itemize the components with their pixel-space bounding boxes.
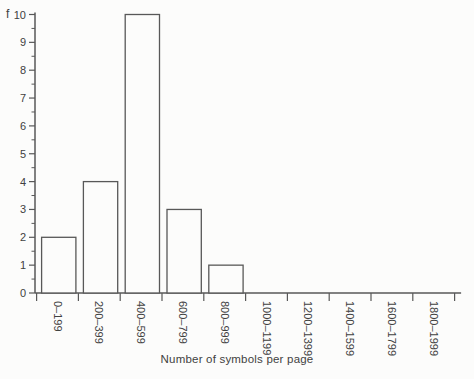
y-tick-label: 10 (14, 9, 26, 21)
x-category-label: 1800–1999 (428, 301, 440, 356)
y-axis-label: f (6, 7, 9, 21)
histogram-bar (209, 265, 243, 293)
y-tick-label: 2 (20, 231, 26, 243)
x-category-label: 800–999 (219, 301, 231, 344)
y-tick-label: 9 (20, 36, 26, 48)
y-tick-label: 3 (20, 203, 26, 215)
y-tick-label: 1 (20, 259, 26, 271)
x-category-label: 1400–1599 (344, 301, 356, 356)
y-tick-label: 8 (20, 64, 26, 76)
x-category-label: 0–199 (52, 301, 64, 332)
histogram-canvas: 0123456789100–199200–399400–599600–79980… (0, 0, 474, 379)
x-axis-title: Number of symbols per page (0, 353, 474, 365)
histogram-bar (167, 209, 201, 293)
histogram-bar (125, 15, 159, 294)
x-category-label: 200–399 (93, 301, 105, 344)
x-category-label: 600–799 (177, 301, 189, 344)
histogram-figure: 0123456789100–199200–399400–599600–79980… (0, 0, 474, 379)
x-category-label: 1000–1199 (261, 301, 273, 355)
y-tick-label: 5 (20, 148, 26, 160)
x-category-label: 1200–1399 (302, 301, 314, 356)
y-tick-label: 6 (20, 120, 26, 132)
histogram-bar (83, 182, 117, 293)
x-category-label: 1600–1799 (386, 301, 398, 356)
y-tick-label: 7 (20, 92, 26, 104)
histogram-bar (42, 237, 76, 293)
y-tick-label: 4 (20, 176, 26, 188)
y-tick-label: 0 (20, 287, 26, 299)
x-category-label: 400–599 (135, 301, 147, 344)
